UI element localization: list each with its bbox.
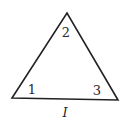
angle-label-3: 3	[93, 83, 101, 98]
side-label: I	[61, 105, 68, 120]
triangle-diagram: 1 2 3 I	[0, 0, 128, 127]
angle-label-1: 1	[28, 82, 36, 97]
angle-label-2: 2	[62, 25, 70, 40]
